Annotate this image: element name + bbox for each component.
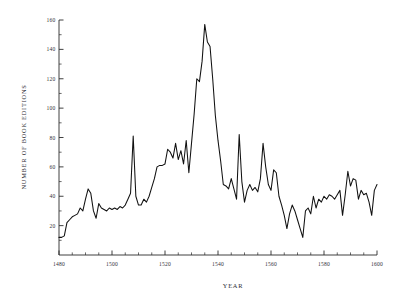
y-tick-label: 100: [47, 105, 56, 111]
x-tick-label: 1600: [371, 261, 383, 267]
y-tick-label: 120: [47, 76, 56, 82]
x-axis-major-ticks: [59, 251, 377, 256]
x-tick-label: 1500: [106, 261, 118, 267]
y-axis-tick-labels: 20406080100120140160: [47, 17, 56, 229]
x-axis-tick-labels: 1480150015201540156015801600: [53, 261, 383, 267]
data-line: [59, 24, 377, 237]
chart-series-group: [59, 24, 377, 237]
x-tick-label: 1580: [318, 261, 330, 267]
x-axis-title: YEAR: [223, 282, 243, 289]
y-axis-title: NUMBER OF BOOK EDITIONS: [20, 84, 27, 189]
y-tick-label: 80: [50, 135, 56, 141]
y-tick-label: 60: [50, 164, 56, 170]
y-tick-label: 40: [50, 193, 56, 199]
y-tick-label: 140: [47, 46, 56, 52]
x-tick-label: 1540: [212, 261, 224, 267]
x-tick-label: 1560: [265, 261, 277, 267]
chart-figure: 20406080100120140160 1480150015201540156…: [0, 0, 403, 299]
y-tick-label: 20: [50, 223, 56, 229]
line-chart: 20406080100120140160 1480150015201540156…: [0, 0, 403, 299]
x-tick-label: 1520: [159, 261, 171, 267]
x-tick-label: 1480: [53, 261, 65, 267]
y-tick-label: 160: [47, 17, 56, 23]
